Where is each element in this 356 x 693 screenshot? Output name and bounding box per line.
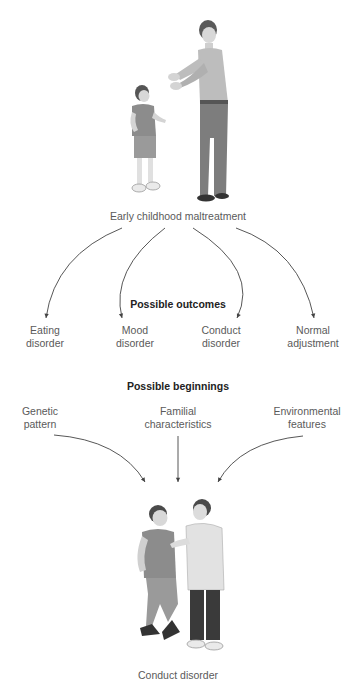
beginning-environmental: Environmental features <box>262 405 352 430</box>
arrow-from-environmental <box>218 436 303 482</box>
left-boy-figure <box>137 505 180 640</box>
outcome-eating: Eating disorder <box>10 324 80 349</box>
outcome-normal: Normal adjustment <box>273 324 353 349</box>
bottom-caption: Conduct disorder <box>0 669 356 682</box>
arrow-from-genetic <box>54 435 145 482</box>
beginning-familial: Familial characteristics <box>130 405 226 430</box>
beginning-genetic: Genetic pattern <box>2 405 78 430</box>
right-boy-figure <box>170 499 224 650</box>
two-boys-illustration <box>120 494 240 664</box>
outcome-conduct: Conduct disorder <box>186 324 256 349</box>
outcomes-heading: Possible outcomes <box>0 298 356 310</box>
beginnings-heading: Possible beginnings <box>0 380 356 392</box>
outcome-mood: Mood disorder <box>100 324 170 349</box>
